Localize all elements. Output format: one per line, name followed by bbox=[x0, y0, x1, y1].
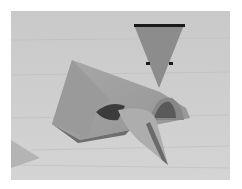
photo bbox=[11, 11, 230, 180]
arrow-top-bar bbox=[134, 24, 185, 27]
arrow-right-notch bbox=[169, 62, 173, 65]
photo-canvas bbox=[11, 11, 230, 180]
arrow-left-notch bbox=[146, 62, 150, 65]
